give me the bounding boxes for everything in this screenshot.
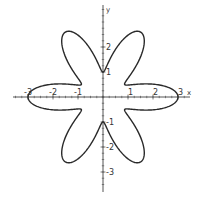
y-tick-label: 2 [106,43,111,52]
x-tick-label: 2 [153,88,158,97]
x-axis-label: x [187,89,191,97]
x-tick-label: 3 [178,88,183,97]
y-axis-label: y [106,6,110,14]
y-tick-label: -1 [106,118,114,127]
axes: -3-2-1123-3-2-112 x y [13,5,191,192]
y-tick-label: 1 [106,68,111,77]
polar-rose-chart: -3-2-1123-3-2-112 x y [0,0,200,199]
y-tick-label: -2 [106,143,114,152]
x-tick-label: -1 [74,88,82,97]
x-tick-label: -2 [49,88,57,97]
y-tick-label: -3 [106,168,114,177]
tick-labels: -3-2-1123-3-2-112 [24,43,183,177]
x-tick-label: 1 [128,88,133,97]
